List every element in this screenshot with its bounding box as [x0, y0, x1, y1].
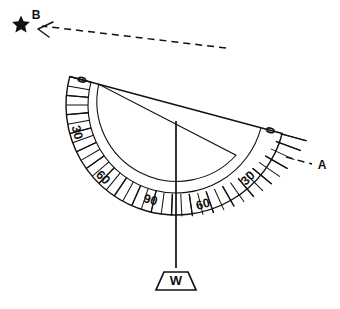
astrolabe-figure: 0 30 60 90 0 30 60 B A [0, 0, 340, 309]
plumb-weight-label: W [170, 273, 183, 288]
figure-canvas: 0 30 60 90 0 30 60 B A [0, 0, 340, 309]
point-label-a: A [318, 158, 327, 172]
figure-background [0, 0, 340, 309]
point-label-b: B [32, 8, 41, 22]
